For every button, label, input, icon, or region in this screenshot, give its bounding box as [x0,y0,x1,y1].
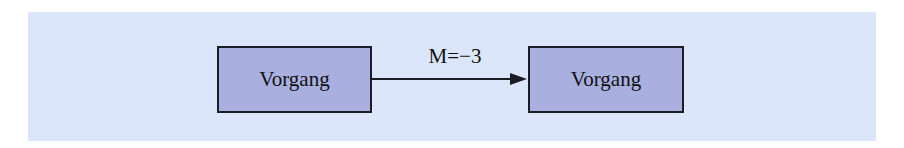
diagram-panel [28,12,876,141]
node-label: Vorgang [571,67,641,92]
edge-label: M=−3 [400,44,510,68]
process-node-source: Vorgang [217,46,372,113]
process-node-target: Vorgang [528,46,684,113]
node-label: Vorgang [259,67,329,92]
